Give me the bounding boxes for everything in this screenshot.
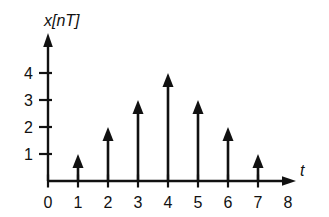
stem-arrowhead-7 <box>253 154 264 168</box>
x-tick-label-2: 2 <box>104 194 113 211</box>
plot-canvas: x[nT] t 4 3 2 1 <box>0 0 329 217</box>
x-tick-label-4: 4 <box>164 194 173 211</box>
y-tick-label-3: 3 <box>24 92 33 109</box>
stem-arrowhead-1 <box>73 154 84 168</box>
x-tick-label-1: 1 <box>74 194 83 211</box>
x-tick-label-7: 7 <box>254 194 263 211</box>
x-tick-label-6: 6 <box>224 194 233 211</box>
y-tick-label-1: 1 <box>24 146 33 163</box>
y-axis-tick-labels: 4 3 2 1 <box>24 65 33 163</box>
stem-group <box>73 73 264 181</box>
stem-arrowhead-6 <box>223 127 234 141</box>
stem-arrowhead-5 <box>193 100 204 114</box>
stem-arrowhead-4 <box>163 73 174 87</box>
x-tick-label-5: 5 <box>194 194 203 211</box>
x-tick-label-3: 3 <box>134 194 143 211</box>
x-axis-tick-labels: 0 1 2 3 4 5 6 7 8 <box>44 194 293 211</box>
y-axis-arrowhead <box>43 33 53 47</box>
x-axis-label: t <box>300 162 305 179</box>
x-tick-label-0: 0 <box>44 194 53 211</box>
x-tick-label-8: 8 <box>284 194 293 211</box>
y-tick-label-2: 2 <box>24 119 33 136</box>
y-tick-label-4: 4 <box>24 65 33 82</box>
stem-arrowhead-2 <box>103 127 114 141</box>
y-axis-ticks <box>39 73 52 154</box>
y-axis <box>43 33 53 181</box>
x-axis-arrowhead <box>282 176 296 186</box>
stem-arrowhead-3 <box>133 100 144 114</box>
signal-plot-figure: x[nT] t 4 3 2 1 <box>0 0 329 217</box>
y-axis-label: x[nT] <box>43 12 80 29</box>
